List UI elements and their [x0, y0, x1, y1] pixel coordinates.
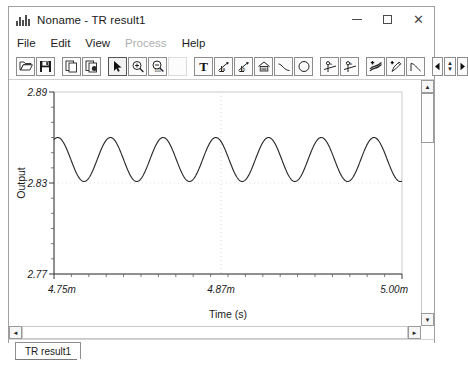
- cursor-b-button[interactable]: b: [234, 57, 253, 76]
- scroll-down-icon: ▼: [425, 317, 431, 323]
- chart-client-area: 2.772.832.894.75m4.87m5.00m Output Time …: [9, 80, 434, 339]
- copy-button[interactable]: [62, 57, 81, 76]
- vertical-scrollbar[interactable]: ▲ ▼: [421, 80, 434, 326]
- add-probe-icon: [389, 60, 403, 73]
- zoom-out-100-icon: 100: [151, 60, 165, 73]
- minimize-icon: [352, 19, 362, 20]
- toolbar: 100 T a b: [9, 53, 434, 80]
- menu-item-help[interactable]: Help: [182, 37, 206, 49]
- ellipse-button[interactable]: [294, 57, 313, 76]
- ellipse-icon: [297, 60, 311, 73]
- text-button[interactable]: T: [194, 57, 213, 76]
- pointer-icon: [112, 60, 123, 73]
- tab-tr-result1[interactable]: TR result1: [15, 342, 81, 359]
- y-tick-label: 2.89: [27, 87, 48, 98]
- minimize-button[interactable]: [341, 7, 372, 32]
- scroll-left-button[interactable]: ◄: [9, 326, 22, 339]
- tab-label: TR result1: [25, 346, 71, 357]
- window-controls: ✕: [341, 7, 434, 32]
- zoom-out-button[interactable]: 100: [148, 57, 167, 76]
- maximize-button[interactable]: [372, 7, 403, 32]
- stepper-down-icon: ▼: [447, 66, 453, 72]
- step-next-button[interactable]: [457, 57, 468, 76]
- x-tick-label: 5.00m: [380, 284, 408, 295]
- step-prev-button[interactable]: [432, 57, 443, 76]
- maximize-icon: [383, 15, 392, 24]
- scroll-right-icon: ►: [412, 330, 418, 336]
- zoom-in-button[interactable]: [128, 57, 147, 76]
- svg-text:b: b: [349, 61, 352, 66]
- svg-text:b: b: [242, 67, 245, 72]
- scroll-left-icon: ◄: [13, 330, 19, 336]
- chart-host[interactable]: 2.772.832.894.75m4.87m5.00m Output Time …: [9, 80, 421, 326]
- title-bar: Noname - TR result1 ✕: [9, 7, 434, 32]
- save-icon: [39, 60, 52, 73]
- output-vs-time-chart: 2.772.832.894.75m4.87m5.00m Output Time …: [9, 80, 421, 326]
- toolbar-spacer-slot: [168, 57, 187, 76]
- window-title: Noname - TR result1: [37, 14, 145, 26]
- menu-item-view[interactable]: View: [85, 37, 110, 49]
- paste-icon: [85, 60, 98, 73]
- svg-text:a: a: [329, 61, 332, 66]
- close-icon: ✕: [413, 13, 424, 26]
- save-button[interactable]: [36, 57, 55, 76]
- axis-scale-icon: [257, 60, 271, 73]
- cursor-measure-a-icon: a: [217, 60, 231, 73]
- text-icon: T: [199, 60, 208, 73]
- zoom-in-icon: [131, 60, 145, 73]
- x-tick-label: 4.75m: [48, 284, 76, 295]
- result-window: Noname - TR result1 ✕ File Edit View Pro…: [8, 6, 435, 343]
- step-next-icon: [459, 62, 466, 71]
- menu-item-process: Process: [125, 37, 167, 49]
- curve-button[interactable]: [406, 57, 425, 76]
- menu-bar: File Edit View Process Help: [9, 32, 434, 53]
- curve-icon: [409, 60, 423, 73]
- scroll-right-button[interactable]: ►: [408, 326, 421, 339]
- zoom-out-label: 100: [154, 68, 161, 73]
- line-button[interactable]: [274, 57, 293, 76]
- step-prev-icon: [434, 62, 441, 71]
- chart-bars-icon: [16, 14, 30, 26]
- marker-b-icon: b: [343, 60, 357, 73]
- open-button[interactable]: [16, 57, 35, 76]
- document-tab-strip: TR result1: [9, 339, 434, 365]
- horizontal-scroll-thumb[interactable]: [22, 326, 408, 339]
- tab-underline: [15, 359, 77, 360]
- horizontal-scrollbar[interactable]: ◄ ►: [9, 326, 421, 339]
- stepper-control[interactable]: ▲ ▼: [444, 57, 456, 76]
- open-icon: [19, 60, 33, 72]
- marker-a-button[interactable]: a: [320, 57, 339, 76]
- y-axis-title: Output: [15, 167, 27, 199]
- add-probe-button[interactable]: [386, 57, 405, 76]
- close-button[interactable]: ✕: [403, 7, 434, 32]
- menu-item-edit[interactable]: Edit: [51, 37, 71, 49]
- scroll-up-icon: ▲: [425, 84, 431, 90]
- cursor-a-button[interactable]: a: [214, 57, 233, 76]
- menu-item-file[interactable]: File: [17, 37, 36, 49]
- add-trace-icon: [369, 60, 383, 73]
- marker-a-icon: a: [323, 60, 337, 73]
- add-trace-button[interactable]: [366, 57, 385, 76]
- copy-icon: [65, 60, 78, 73]
- scrollbar-corner: [421, 326, 434, 339]
- vertical-scroll-thumb[interactable]: [421, 93, 434, 143]
- axis-scale-button[interactable]: [254, 57, 273, 76]
- y-tick-label: 2.77: [27, 269, 48, 280]
- scroll-down-button[interactable]: ▼: [421, 313, 434, 326]
- cursor-measure-b-icon: b: [237, 60, 251, 73]
- x-tick-label: 4.87m: [207, 284, 235, 295]
- line-icon: [277, 60, 291, 73]
- marker-b-button[interactable]: b: [340, 57, 359, 76]
- scroll-up-button[interactable]: ▲: [421, 80, 434, 93]
- pointer-button[interactable]: [108, 57, 127, 76]
- x-axis-title: Time (s): [209, 308, 247, 320]
- y-tick-label: 2.83: [27, 178, 48, 189]
- svg-text:a: a: [222, 67, 225, 72]
- paste-button[interactable]: [82, 57, 101, 76]
